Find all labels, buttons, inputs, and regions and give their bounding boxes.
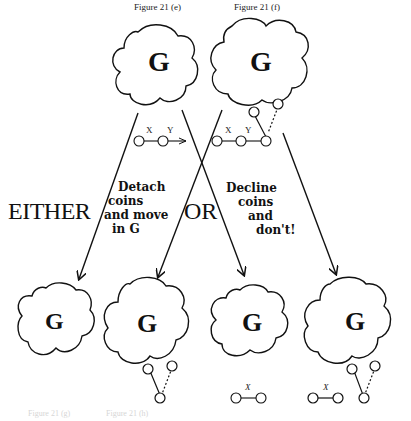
- coin-chain-g-right: [143, 361, 177, 403]
- caption-figure-h: Figure 21 (h): [106, 409, 148, 418]
- coin-chain-f-bottom: [212, 136, 271, 146]
- caption-figure-e: Figure 21 (e): [134, 2, 181, 12]
- coin-label-x-f: X: [225, 125, 232, 135]
- option-2-line-3: and: [248, 209, 273, 223]
- coin-label-x-h-right: X: [323, 382, 329, 392]
- either-label: EITHER: [8, 198, 90, 225]
- option-1-line-2: coins: [108, 194, 143, 208]
- cloud-letter-g-left: G: [45, 308, 64, 335]
- cloud-letter-g-right: G: [137, 309, 157, 339]
- coin-label-x-h-left: X: [245, 382, 251, 392]
- option-2-line-2: coins: [238, 195, 273, 209]
- arrow-f-to-h-right: [283, 133, 336, 274]
- option-1-line-3: and move: [104, 208, 168, 222]
- or-label: OR: [184, 198, 217, 225]
- coin-chain-h-left: [231, 393, 266, 403]
- coin-chain-e: [134, 136, 186, 146]
- caption-figure-f: Figure 21 (f): [234, 2, 280, 12]
- option-1-line-4: in G: [112, 222, 140, 236]
- option-2-line-4: don't!: [256, 223, 296, 237]
- cloud-letter-f: G: [250, 46, 272, 78]
- coin-label-y-e: Y: [167, 125, 174, 135]
- cloud-letter-e: G: [148, 46, 170, 78]
- option-1-line-1: Detach: [118, 180, 165, 194]
- caption-figure-g: Figure 21 (g): [28, 409, 70, 418]
- cloud-letter-h-right: G: [345, 307, 365, 337]
- coin-label-x-e: X: [146, 125, 153, 135]
- coin-chain-h-right: [308, 361, 380, 403]
- arrow-f-to-g-right: [158, 110, 222, 277]
- coin-label-y-f: Y: [245, 125, 252, 135]
- cloud-letter-h-left: G: [242, 308, 262, 338]
- option-2-line-1: Decline: [226, 181, 277, 195]
